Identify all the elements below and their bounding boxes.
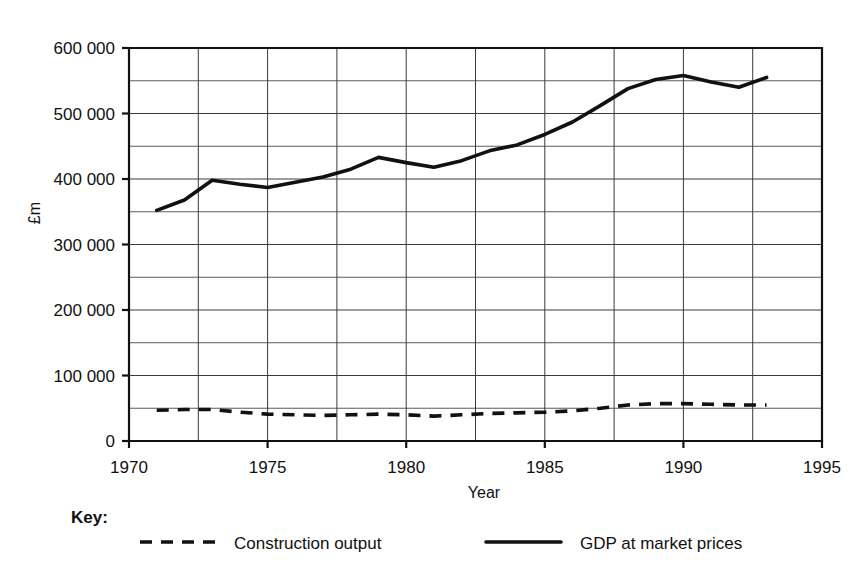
y-tick-label-200000: 200 000	[54, 301, 115, 320]
x-tick-label-1970: 1970	[110, 458, 148, 477]
x-axis-title: Year	[468, 484, 501, 501]
y-tick-label-0: 0	[106, 432, 115, 451]
y-tick-label-400000: 400 000	[54, 170, 115, 189]
legend-label-gdp-at-market-prices: GDP at market prices	[580, 534, 742, 553]
x-tick-label-1980: 1980	[387, 458, 425, 477]
y-axis-title: £m	[26, 202, 43, 224]
line-chart: 0100 000200 000300 000400 000500 000600 …	[0, 0, 864, 582]
x-tick-label-1975: 1975	[249, 458, 287, 477]
y-tick-label-500000: 500 000	[54, 105, 115, 124]
x-tick-label-1995: 1995	[803, 458, 841, 477]
y-tick-label-100000: 100 000	[54, 367, 115, 386]
x-tick-label-1990: 1990	[664, 458, 702, 477]
y-tick-label-600000: 600 000	[54, 39, 115, 58]
chart-figure: 0100 000200 000300 000400 000500 000600 …	[0, 0, 864, 582]
legend-label-construction-output: Construction output	[234, 534, 382, 553]
legend-key-label: Key:	[71, 508, 108, 527]
y-tick-label-300000: 300 000	[54, 236, 115, 255]
x-tick-label-1985: 1985	[526, 458, 564, 477]
